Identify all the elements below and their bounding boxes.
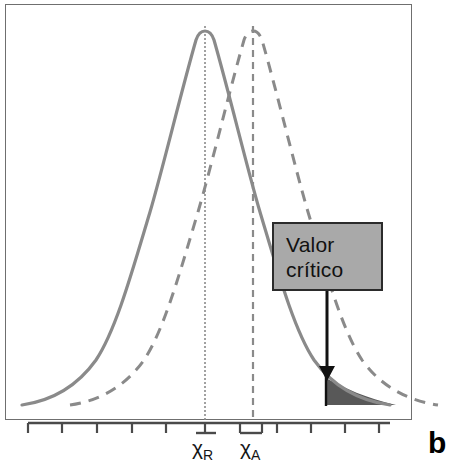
axis-label-chi-a-sub: A	[251, 447, 260, 463]
figure-panel-b: Valor crítico χR χA b	[0, 0, 459, 471]
axis-label-chi-a: χA	[240, 436, 260, 463]
panel-letter: b	[428, 428, 446, 458]
x-axis-ticks	[28, 423, 379, 433]
critical-value-callout[interactable]: Valor crítico	[272, 222, 383, 291]
distribution-chart	[0, 0, 459, 471]
axis-label-chi-a-base: χ	[240, 436, 251, 459]
curve-distribucion-r	[22, 31, 390, 405]
axis-label-chi-r: χR	[192, 436, 213, 463]
axis-label-chi-r-base: χ	[192, 436, 203, 459]
callout-line-1: Valor	[286, 232, 381, 257]
axis-label-chi-r-sub: R	[203, 447, 213, 463]
callout-line-2: crítico	[286, 257, 381, 282]
